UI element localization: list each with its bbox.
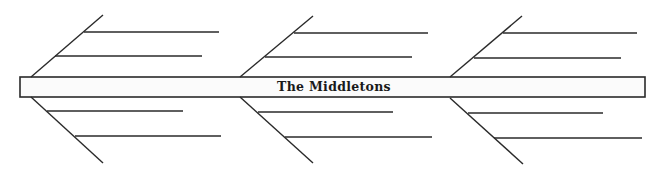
lower-bone-line bbox=[450, 98, 523, 164]
fishbone-diagram: The Middletons bbox=[0, 0, 660, 177]
upper-bone-line bbox=[450, 16, 522, 77]
upper-bone-line bbox=[240, 16, 313, 77]
diagram-title: The Middletons bbox=[277, 79, 391, 94]
upper-bone-line bbox=[31, 15, 103, 77]
lower-bone-line bbox=[240, 97, 313, 163]
lower-bone-line bbox=[31, 97, 103, 163]
